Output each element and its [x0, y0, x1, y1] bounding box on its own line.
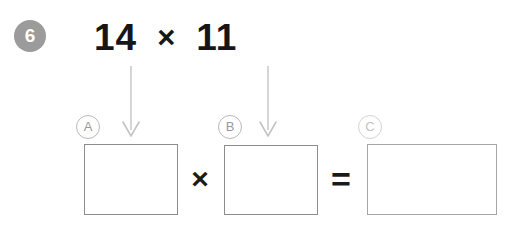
label-circle-b: B: [218, 115, 242, 139]
arrow-down-to-box-b-icon: [255, 66, 281, 142]
row-multiply-operator: ×: [184, 163, 216, 195]
question-number-badge: 6: [14, 20, 46, 52]
row-equals-operator: =: [324, 160, 358, 198]
answer-box-c[interactable]: [367, 144, 497, 215]
label-circle-c: C: [358, 115, 382, 139]
equation-left-operand: 14: [94, 17, 137, 59]
label-circle-a: A: [76, 115, 100, 139]
worksheet-canvas: 6 14 × 11 A B C × =: [0, 0, 521, 239]
answer-box-a[interactable]: [84, 144, 178, 215]
equation-multiply-operator: ×: [157, 20, 176, 56]
arrow-down-to-box-a-icon: [118, 66, 144, 142]
answer-box-b[interactable]: [224, 145, 318, 215]
equation-right-operand: 11: [196, 17, 237, 59]
problem-equation: 14 × 11: [94, 16, 237, 60]
